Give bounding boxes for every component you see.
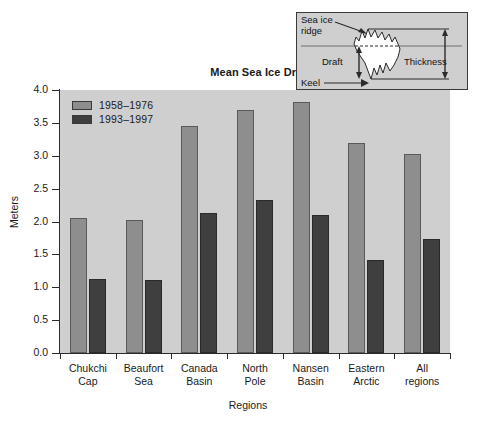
x-label-line-1: Basin: [167, 375, 231, 388]
x-tick-7: [450, 353, 451, 359]
bar-all-regions-1993-1997: [423, 239, 440, 353]
bar-eastern-arctic-1958-1976: [348, 143, 365, 353]
y-tick-label-3.5: 3.5: [0, 117, 48, 127]
y-tick-0.0: [52, 353, 60, 354]
inset-label-keel: Keel: [301, 77, 320, 88]
figure-sea-ice-draft: 0.00.51.01.52.02.53.03.54.0 Meters Mean …: [0, 0, 478, 425]
bar-north-pole-1958-1976: [237, 110, 254, 353]
inset-label-sea-ice-ridge-line2: ridge: [301, 25, 322, 36]
x-label-line-0: All: [390, 362, 454, 375]
x-label-all-regions: Allregions: [390, 362, 454, 387]
y-axis-title: Meters: [8, 182, 20, 242]
x-label-north-pole: NorthPole: [223, 362, 287, 387]
draft-arrowhead-down: [356, 72, 362, 79]
x-label-line-0: North: [223, 362, 287, 375]
bar-north-pole-1993-1997: [256, 200, 273, 353]
x-label-chukchi-cap: ChukchiCap: [56, 362, 120, 387]
inset-svg: Sea ice ridge Draft Thickness Keel: [297, 13, 466, 88]
sea-ice-shape: [354, 29, 400, 79]
x-tick-5: [339, 353, 340, 359]
bar-group-container: [60, 90, 450, 353]
x-tick-6: [394, 353, 395, 359]
x-label-line-1: Basin: [279, 375, 343, 388]
y-tick-label-1.5: 1.5: [0, 248, 48, 258]
bar-chukchi-cap-1958-1976: [70, 218, 87, 353]
x-tick-0: [60, 353, 61, 359]
inset-diagram-sea-ice-cross-section: Sea ice ridge Draft Thickness Keel: [296, 12, 468, 90]
inset-label-draft: Draft: [322, 56, 343, 67]
x-label-nansen-basin: NansenBasin: [279, 362, 343, 387]
bar-canada-basin-1958-1976: [181, 126, 198, 353]
inset-label-sea-ice-ridge-line1: Sea ice: [301, 14, 333, 25]
y-tick-1.0: [52, 287, 60, 288]
y-tick-label-0.0: 0.0: [0, 347, 48, 357]
x-label-canada-basin: CanadaBasin: [167, 362, 231, 387]
x-label-line-0: Beaufort: [112, 362, 176, 375]
y-tick-0.5: [52, 320, 60, 321]
keel-pointer-arrowhead: [361, 79, 369, 87]
y-tick-4.0: [52, 90, 60, 91]
x-axis-title: Regions: [193, 399, 303, 411]
y-tick-2.0: [52, 222, 60, 223]
x-axis-line: [59, 353, 451, 354]
x-label-line-0: Eastern: [334, 362, 398, 375]
y-tick-3.0: [52, 156, 60, 157]
bar-eastern-arctic-1993-1997: [367, 260, 384, 353]
y-tick-label-3.0: 3.0: [0, 150, 48, 160]
x-label-line-1: Arctic: [334, 375, 398, 388]
x-label-line-1: regions: [390, 375, 454, 388]
x-label-line-0: Chukchi: [56, 362, 120, 375]
x-label-line-0: Nansen: [279, 362, 343, 375]
bar-nansen-basin-1958-1976: [293, 102, 310, 353]
x-tick-2: [171, 353, 172, 359]
bar-nansen-basin-1993-1997: [312, 215, 329, 353]
y-tick-1.5: [52, 254, 60, 255]
x-label-line-1: Pole: [223, 375, 287, 388]
y-tick-3.5: [52, 123, 60, 124]
x-tick-4: [283, 353, 284, 359]
bar-all-regions-1958-1976: [404, 154, 421, 353]
y-tick-label-1.0: 1.0: [0, 281, 48, 291]
ridge-pointer-line: [335, 22, 363, 32]
x-label-beaufort-sea: BeaufortSea: [112, 362, 176, 387]
thickness-arrowhead-down: [442, 72, 448, 79]
x-label-line-1: Sea: [112, 375, 176, 388]
bar-chukchi-cap-1993-1997: [89, 279, 106, 353]
x-tick-1: [116, 353, 117, 359]
y-tick-label-0.5: 0.5: [0, 314, 48, 324]
x-tick-3: [227, 353, 228, 359]
x-label-line-1: Cap: [56, 375, 120, 388]
x-label-eastern-arctic: EasternArctic: [334, 362, 398, 387]
x-label-line-0: Canada: [167, 362, 231, 375]
bar-beaufort-sea-1958-1976: [126, 220, 143, 353]
bar-canada-basin-1993-1997: [200, 213, 217, 353]
y-tick-label-4.0: 4.0: [0, 84, 48, 94]
y-tick-2.5: [52, 189, 60, 190]
inset-label-thickness: Thickness: [404, 56, 447, 67]
bar-beaufort-sea-1993-1997: [145, 280, 162, 353]
thickness-arrowhead-up: [442, 29, 448, 36]
